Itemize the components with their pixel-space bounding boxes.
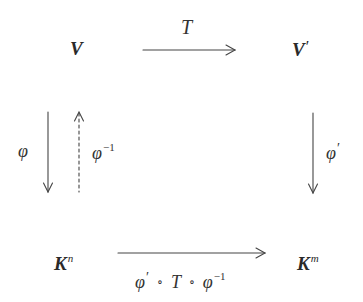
label-phi-inverse: φ−1 [92, 142, 115, 162]
node-V-prime-mark: ′ [306, 38, 310, 55]
label-composite-prime: ′ [146, 270, 149, 285]
arrow-right-phi-prime [309, 113, 318, 193]
label-composite: φ′∘T∘φ−1 [135, 271, 226, 291]
node-K-m: Km [297, 253, 319, 273]
label-phi-inverse-exponent: −1 [103, 141, 115, 153]
arrow-left-phi [44, 112, 53, 192]
label-composite-T: T [171, 272, 181, 292]
label-T: T [181, 17, 192, 37]
label-composite-phi: φ [135, 272, 145, 292]
label-phi-prime-base: φ [326, 143, 336, 163]
node-K-n-base: K [54, 253, 67, 274]
arrow-left-phi-inverse [75, 112, 84, 192]
node-V: V [70, 39, 83, 58]
compose-operator-2: ∘ [189, 275, 195, 289]
compose-operator-1: ∘ [157, 275, 163, 289]
node-K-n-exponent: n [68, 252, 74, 264]
label-phi-text: φ [18, 141, 28, 161]
node-K-n: Kn [54, 253, 73, 273]
label-phi-inverse-base: φ [92, 143, 102, 163]
label-phi: φ [18, 142, 28, 160]
node-K-m-exponent: m [311, 252, 319, 264]
arrow-bottom-composite [118, 248, 265, 258]
node-V-base: V [70, 38, 83, 59]
label-composite-exponent: −1 [214, 270, 226, 282]
label-composite-phi-inv: φ [203, 272, 213, 292]
arrow-top-T [143, 45, 235, 55]
label-T-text: T [181, 16, 192, 38]
node-V-prime-base: V [292, 39, 305, 60]
node-V-prime: V′ [292, 39, 309, 59]
node-K-m-base: K [297, 253, 310, 274]
label-phi-prime-mark: ′ [337, 141, 340, 156]
label-phi-prime: φ′ [326, 142, 340, 162]
